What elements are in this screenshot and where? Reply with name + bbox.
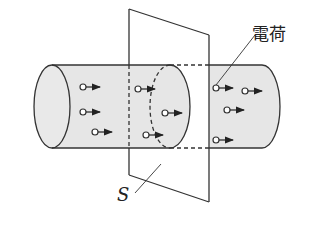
charge-label: 電荷 xyxy=(252,20,286,45)
cylinder-body-right xyxy=(209,65,280,148)
plane-label: S xyxy=(117,184,129,205)
cylinder-left-cap xyxy=(34,65,70,148)
